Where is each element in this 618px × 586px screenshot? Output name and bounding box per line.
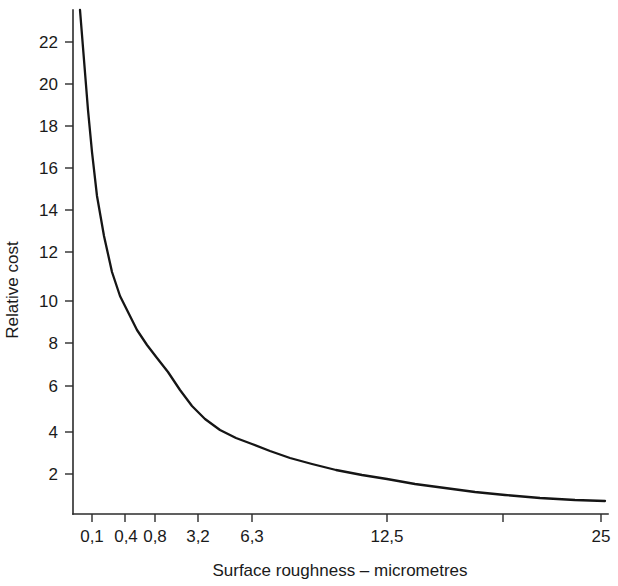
y-tick-label-6: 6 [49, 377, 58, 396]
y-tick-label-12: 12 [39, 243, 58, 262]
y-axis-title: Relative cost [3, 241, 22, 339]
x-tick-label-3-2: 3,2 [186, 527, 210, 546]
y-tick-label-2: 2 [49, 465, 58, 484]
y-tick-label-14: 14 [39, 201, 58, 220]
x-axis-ticks [92, 514, 601, 522]
y-tick-label-20: 20 [39, 75, 58, 94]
x-tick-label-0-4: 0,4 [114, 527, 138, 546]
x-tick-label-12-5: 12,5 [370, 527, 403, 546]
chart-figure: 22 20 18 16 14 12 10 8 6 4 2 0,1 0,4 [0, 0, 618, 586]
y-tick-label-16: 16 [39, 159, 58, 178]
x-axis-tick-labels: 0,1 0,4 0,8 3,2 6,3 12,5 25 [80, 527, 610, 546]
relative-cost-vs-roughness-chart: 22 20 18 16 14 12 10 8 6 4 2 0,1 0,4 [0, 0, 618, 586]
y-axis-ticks [65, 42, 73, 474]
y-axis-tick-labels: 22 20 18 16 14 12 10 8 6 4 2 [39, 33, 58, 484]
x-axis-title: Surface roughness – micrometres [212, 561, 467, 580]
y-tick-label-8: 8 [49, 334, 58, 353]
y-tick-label-18: 18 [39, 117, 58, 136]
y-tick-label-10: 10 [39, 292, 58, 311]
x-tick-label-0-8: 0,8 [143, 527, 167, 546]
x-tick-label-6-3: 6,3 [240, 527, 264, 546]
y-tick-label-4: 4 [49, 423, 58, 442]
relative-cost-curve [80, 10, 605, 501]
y-tick-label-22: 22 [39, 33, 58, 52]
x-tick-label-0-1: 0,1 [80, 527, 104, 546]
x-tick-label-25: 25 [592, 527, 611, 546]
